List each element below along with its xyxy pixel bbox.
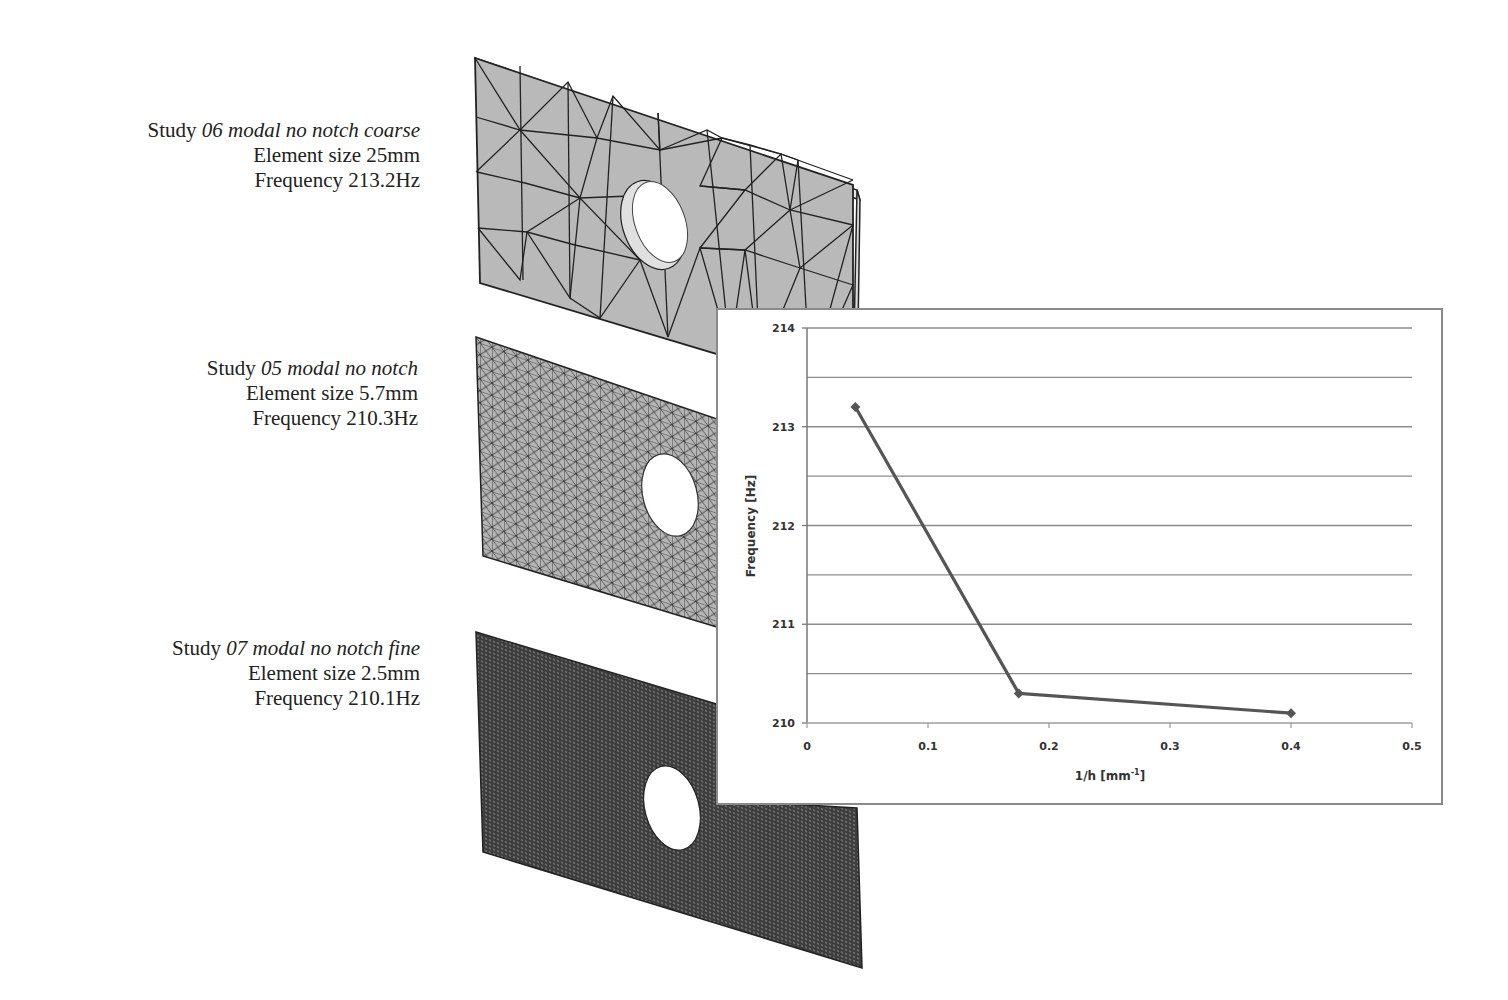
x-axis-ticks: 00.10.20.30.40.5 [803,723,1422,753]
y-axis-title: Frequency [Hz] [744,475,758,577]
y-tick-label: 211 [772,618,795,631]
y-tick-label: 210 [772,717,795,730]
y-tick-label: 214 [772,322,795,335]
x-axis-title: 1/h [mm-1] [1075,768,1145,783]
frequency-series [850,402,1296,718]
diamond-marker [1286,708,1296,718]
y-tick-label: 212 [772,520,795,533]
series-line [855,407,1291,713]
x-tick-label: 0.1 [918,740,938,753]
y-tick-label: 213 [772,421,795,434]
x-tick-label: 0.3 [1160,740,1180,753]
chart-plot-area: 210211212213214 00.10.20.30.40.5 Frequen… [0,0,1508,1000]
x-tick-label: 0.5 [1402,740,1422,753]
y-axis-ticks: 210211212213214 [772,322,807,730]
chart-gridlines [807,328,1412,723]
x-tick-label: 0.2 [1039,740,1059,753]
x-tick-label: 0.4 [1281,740,1301,753]
x-tick-label: 0 [803,740,811,753]
